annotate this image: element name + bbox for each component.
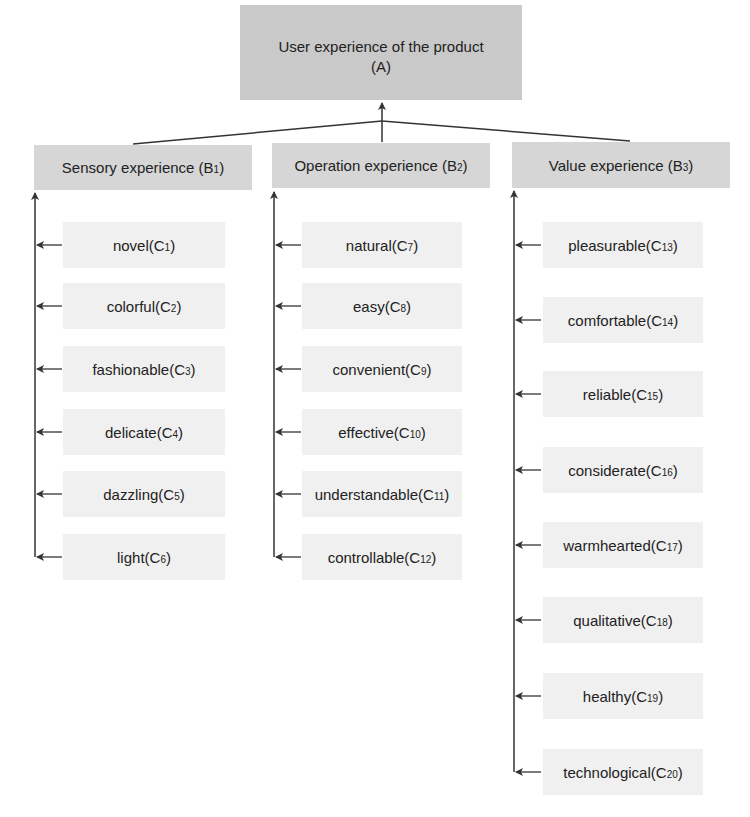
item-comfortable: comfortable(C14)	[543, 297, 703, 343]
category-value-experience: Value experience (B3)	[512, 142, 730, 188]
category-operation-experience: Operation experience (B2)	[272, 143, 490, 188]
item-easy: easy(C8)	[302, 283, 462, 329]
item-understandable: understandable(C11)	[302, 471, 462, 517]
item-light: light(C6)	[63, 534, 225, 580]
item-pleasurable: pleasurable(C13)	[543, 222, 703, 268]
item-colorful: colorful(C2)	[63, 283, 225, 329]
item-controllable: controllable(C12)	[302, 534, 462, 580]
category-label: Value experience (B3)	[549, 157, 694, 174]
item-convenient: convenient(C9)	[302, 346, 462, 392]
item-technological: technological(C20)	[543, 749, 703, 795]
item-fashionable: fashionable(C3)	[63, 346, 225, 392]
item-warmhearted: warmhearted(C17)	[543, 522, 703, 568]
item-effective: effective(C10)	[302, 409, 462, 455]
category-label: Sensory experience (B1)	[62, 159, 224, 176]
item-healthy: healthy(C19)	[543, 673, 703, 719]
root-label-line2: (A)	[371, 57, 391, 77]
item-considerate: considerate(C16)	[543, 447, 703, 493]
root-label-line1: User experience of the product	[278, 37, 483, 57]
item-reliable: reliable(C15)	[543, 371, 703, 417]
category-sensory-experience: Sensory experience (B1)	[34, 145, 252, 190]
item-novel: novel(C1)	[63, 222, 225, 268]
item-qualitative: qualitative(C18)	[543, 597, 703, 643]
category-label: Operation experience (B2)	[294, 157, 467, 174]
item-dazzling: dazzling(C5)	[63, 471, 225, 517]
item-delicate: delicate(C4)	[63, 409, 225, 455]
root-node-user-experience: User experience of the product (A)	[240, 5, 522, 100]
item-natural: natural(C7)	[302, 222, 462, 268]
